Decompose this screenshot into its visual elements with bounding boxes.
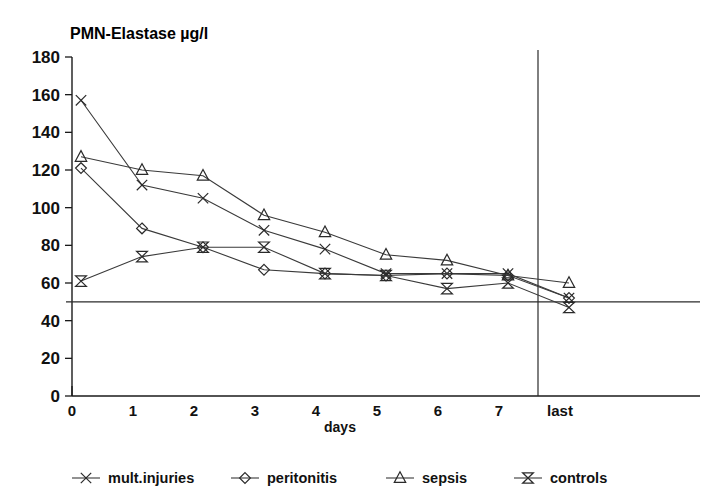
x-tick-label: 6 [434,402,442,419]
x-tick-label: 2 [190,402,198,419]
y-tick-label: 0 [51,387,60,406]
x-tick-label: 3 [251,402,259,419]
legend-label: peritonitis [267,470,337,486]
y-tick-label: 40 [41,312,60,331]
x-axis-title: days [324,419,356,435]
legend-label: sepsis [422,470,467,486]
x-tick-label: 1 [129,402,137,419]
x-tick-label: last [547,402,573,419]
y-tick-label: 100 [32,199,60,218]
legend-item-controls[interactable]: controls [514,470,607,486]
y-tick-label: 20 [41,349,60,368]
chart-background [0,0,712,497]
x-tick-label: 7 [495,402,503,419]
y-tick-label: 80 [41,236,60,255]
x-tick-label: 0 [68,402,76,419]
y-tick-label: 180 [32,48,60,67]
y-tick-label: 120 [32,161,60,180]
y-tick-label: 60 [41,274,60,293]
chart-canvas: PMN-Elastase µg/l 0204060801001201401601… [0,0,712,497]
pmn-elastase-chart: PMN-Elastase µg/l 0204060801001201401601… [0,0,712,497]
y-tick-label: 140 [32,123,60,142]
x-tick-label: 5 [373,402,381,419]
legend-label: controls [550,470,607,486]
legend-label: mult.injuries [108,470,194,486]
y-tick-label: 160 [32,86,60,105]
x-tick-label: 4 [312,402,321,419]
chart-title: PMN-Elastase µg/l [70,25,208,42]
